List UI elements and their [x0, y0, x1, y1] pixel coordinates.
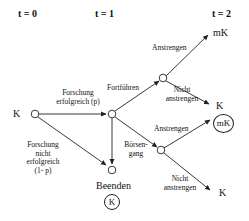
research-success-line2: erfolgreich (p): [48, 98, 108, 107]
upper-no-effort-label: Nicht anstrengen: [162, 86, 202, 103]
upper-effort-label: Anstrengen: [152, 44, 187, 53]
upper-decision-node: [159, 74, 167, 82]
research-fail-line4: (1- p): [24, 167, 62, 176]
stop-label: Beenden: [96, 181, 131, 191]
stop-value: K: [104, 194, 120, 210]
root-node: [31, 110, 39, 118]
t1-node: [108, 110, 116, 118]
upper-no-effort-line2: anstrengen: [162, 95, 202, 104]
continue-label: Fortführen: [107, 84, 139, 93]
time-label-t2: t = 2: [212, 9, 231, 19]
terminal-upper-effort: mK: [213, 28, 228, 38]
research-fail-label: Forschung nicht erfolgreich (1- p): [24, 141, 62, 176]
time-label-t0: t = 0: [18, 9, 37, 19]
ipo-line2: gang: [122, 150, 150, 159]
lower-effort-label: Anstrengen: [154, 125, 189, 134]
stop-node: [108, 166, 116, 174]
research-success-label: Forschung erfolgreich (p): [48, 89, 108, 106]
lower-no-effort-label: Nicht anstrengen: [160, 175, 200, 192]
terminal-lower-no-effort: K: [219, 188, 226, 198]
edge-upper-effort: [166, 35, 208, 76]
root-label: K: [13, 109, 20, 119]
lower-decision-node: [157, 146, 165, 154]
terminal-lower-effort: mK: [213, 114, 234, 133]
time-label-t1: t = 1: [95, 9, 114, 19]
ipo-label: Börsen- gang: [122, 141, 150, 158]
lower-no-effort-line2: anstrengen: [160, 184, 200, 193]
terminal-upper-no-effort: K: [216, 101, 223, 111]
